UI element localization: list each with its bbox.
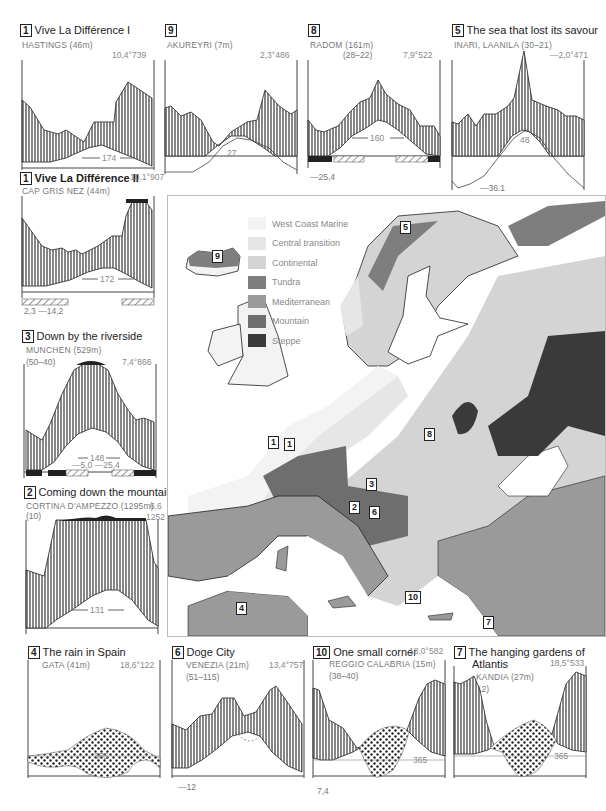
- climate-panel-radom: 8 RADOM (161m) (28–22) 7,9°522 160 —25,4: [308, 24, 448, 184]
- panel-number-badge: 4: [28, 646, 40, 659]
- frost-free-label: 131: [90, 605, 104, 615]
- panel-number-badge: 7: [454, 646, 466, 659]
- climate-chart: 148 —5,0 —25,4: [24, 354, 158, 479]
- station-name: INARI, LAANILA (30–21): [454, 40, 552, 50]
- climate-chart: 365: [313, 660, 447, 780]
- panel-title: 10One small corner: [313, 646, 417, 659]
- frost-free-label: 27: [227, 148, 237, 158]
- climate-chart: 365: [28, 660, 162, 780]
- extreme-min-temp: 2,3 —14,2: [24, 306, 63, 316]
- climate-chart: 172: [22, 184, 156, 304]
- panel-number-badge: 3: [22, 330, 34, 343]
- extreme-min-temp: —12: [178, 782, 196, 792]
- panel-number-badge: 5: [452, 24, 464, 37]
- legend-item-central-transition: Central transition: [248, 234, 348, 254]
- climate-panel-inari: 5The sea that lost its savour INARI, LAA…: [452, 24, 602, 194]
- europe-climate-map: West Coast Marine Central transition Con…: [167, 195, 606, 637]
- climate-panel-hastings: 1Vive La Différence I HASTINGS (46m) 10,…: [20, 24, 155, 164]
- climate-panel-kandia: 7The hanging gardens of Atlantis 18,5°53…: [454, 646, 604, 796]
- panel-number-badge: 9: [165, 24, 177, 37]
- map-marker-7: 7: [483, 616, 494, 629]
- climate-chart: 48: [452, 50, 586, 190]
- panel-title: 1Vive La Différence I: [20, 24, 130, 37]
- climate-panel-reggio-calabria: 10One small corner 18,0°582 REGGIO CALAB…: [313, 646, 453, 806]
- station-stats: 18,0°582: [409, 646, 443, 656]
- panel-number-badge: 1: [20, 24, 32, 37]
- climate-chart: 174: [22, 50, 156, 170]
- panel-title: 2Coming down the mountain: [24, 486, 172, 499]
- legend-swatch: [248, 256, 266, 269]
- legend-item-steppe: Steppe: [248, 331, 348, 351]
- panel-title: 9: [165, 24, 180, 37]
- panel-number-badge: 6: [172, 646, 184, 659]
- map-marker-2: 2: [349, 501, 360, 514]
- climate-panel-cap-gris-nez: 1Vive La Différence II 10,1°907 CAP GRIS…: [20, 172, 160, 317]
- frost-free-label: 172: [100, 274, 114, 284]
- legend-swatch: [248, 217, 266, 230]
- map-marker-10: 10: [405, 591, 421, 604]
- panel-number-badge: 8: [308, 24, 320, 37]
- extreme-min-temp: —25,4: [310, 172, 335, 182]
- climate-chart: 27: [165, 50, 301, 175]
- legend-swatch: [248, 315, 266, 328]
- legend-item-mountain: Mountain: [248, 312, 348, 332]
- legend-item-west-coast-marine: West Coast Marine: [248, 214, 348, 234]
- panel-title: 4The rain in Spain: [28, 646, 126, 659]
- frost-free-label: 365: [413, 755, 427, 765]
- extreme-min-temp: —36.1: [480, 183, 505, 193]
- climate-panel-akureyri: 9 AKUREYRI (7m) 2,3°486 27: [165, 24, 300, 169]
- climate-panel-munchen: 3Down by the riverside MUNCHEN (529m) (5…: [22, 330, 162, 480]
- frost-free-label: 365: [554, 751, 568, 761]
- legend-item-tundra: Tundra: [248, 273, 348, 293]
- extreme-min-temp: 7,4: [317, 786, 329, 796]
- map-marker-1a: 1: [268, 436, 279, 449]
- legend-item-mediterranean: Mediterranean: [248, 292, 348, 312]
- panel-title: 5The sea that lost its savour: [452, 24, 598, 37]
- legend-item-continental: Continental: [248, 253, 348, 273]
- climate-panel-gata: 4The rain in Spain GATA (41m) 18,6°122 3…: [28, 646, 163, 796]
- map-marker-3: 3: [366, 478, 377, 491]
- climate-panel-cortina: 2Coming down the mountain CORTINA D'AMPE…: [24, 486, 164, 636]
- legend-swatch: [248, 276, 266, 289]
- frost-free-label: 365: [94, 751, 108, 761]
- panel-title: 6Doge City: [172, 646, 235, 659]
- map-regions: [168, 196, 605, 636]
- station-name: HASTINGS (46m): [22, 40, 93, 50]
- legend-swatch: [248, 334, 266, 347]
- map-marker-1b: 1: [284, 438, 295, 451]
- legend-swatch: [248, 237, 266, 250]
- panel-title: 8: [308, 24, 323, 37]
- panel-number-badge: 2: [24, 486, 36, 499]
- map-marker-5: 5: [400, 221, 411, 234]
- map-marker-4: 4: [236, 602, 247, 615]
- panel-title: 3Down by the riverside: [22, 330, 142, 343]
- map-marker-9: 9: [212, 250, 223, 263]
- frost-free-label: 48: [520, 135, 530, 145]
- climate-chart: 131: [26, 510, 160, 635]
- climate-chart: [172, 660, 306, 780]
- station-stats: 10,1°907: [130, 172, 164, 182]
- frost-free-label: 174: [102, 153, 116, 163]
- climate-chart: 365: [454, 660, 588, 780]
- map-marker-8: 8: [424, 428, 435, 441]
- extreme-min-temp: —5,0 —25,4: [72, 460, 120, 470]
- climate-chart: 160: [308, 50, 442, 170]
- station-name: AKUREYRI (7m): [167, 40, 233, 50]
- map-legend: West Coast Marine Central transition Con…: [248, 214, 348, 351]
- frost-free-label: 160: [370, 133, 384, 143]
- climate-panel-venezia: 6Doge City VENEZIA (21m) (51–115) 13,4°7…: [172, 646, 312, 806]
- station-name: RADOM (161m): [310, 40, 373, 50]
- panel-number-badge: 10: [313, 646, 330, 659]
- map-marker-6: 6: [369, 506, 380, 519]
- legend-swatch: [248, 295, 266, 308]
